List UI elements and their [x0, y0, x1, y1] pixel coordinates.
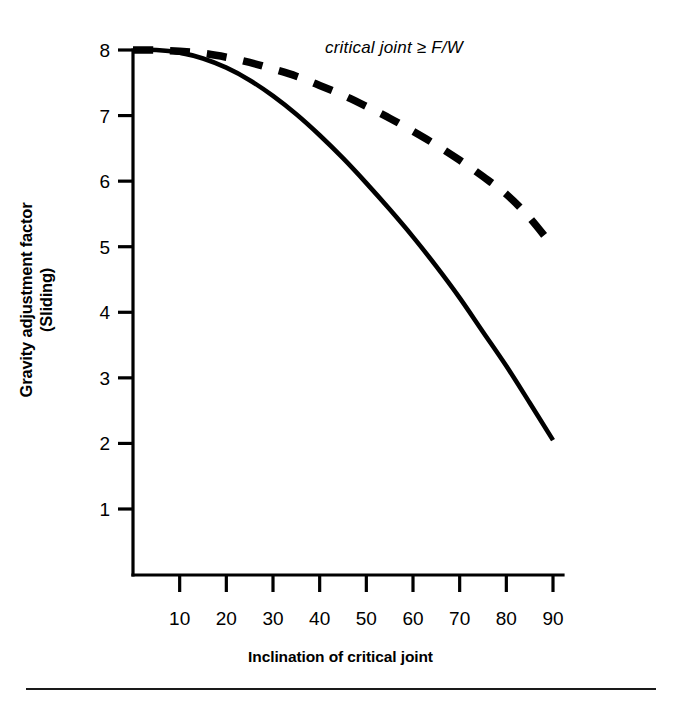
- y-tick-label: 8: [99, 40, 110, 61]
- x-tick-label: 60: [402, 608, 423, 629]
- y-tick-label: 2: [99, 433, 110, 454]
- y-tick-label: 5: [99, 237, 110, 258]
- x-axis-title: Inclination of critical joint: [0, 648, 681, 666]
- x-tick-label: 30: [262, 608, 283, 629]
- x-tick-label: 20: [216, 608, 237, 629]
- x-tick-label: 90: [542, 608, 563, 629]
- y-tick-label: 6: [99, 171, 110, 192]
- y-axis-ticks: 12345678: [99, 40, 133, 520]
- series-dashed-curve: [133, 50, 553, 247]
- figure-container: Gravity adjustment factor (Sliding) crit…: [0, 0, 681, 702]
- x-tick-label: 80: [496, 608, 517, 629]
- axis-lines: [133, 50, 563, 575]
- bottom-rule-divider: [26, 688, 656, 690]
- y-tick-label: 3: [99, 368, 110, 389]
- x-tick-label: 50: [356, 608, 377, 629]
- x-axis-ticks: 102030405060708090: [169, 575, 563, 629]
- x-tick-label: 70: [449, 608, 470, 629]
- y-tick-label: 4: [99, 302, 110, 323]
- x-tick-label: 40: [309, 608, 330, 629]
- y-tick-label: 7: [99, 106, 110, 127]
- series-solid-curve: [133, 50, 553, 440]
- data-series: [133, 50, 553, 440]
- x-tick-label: 10: [169, 608, 190, 629]
- y-tick-label: 1: [99, 499, 110, 520]
- plot-svg: 12345678 102030405060708090: [0, 0, 681, 702]
